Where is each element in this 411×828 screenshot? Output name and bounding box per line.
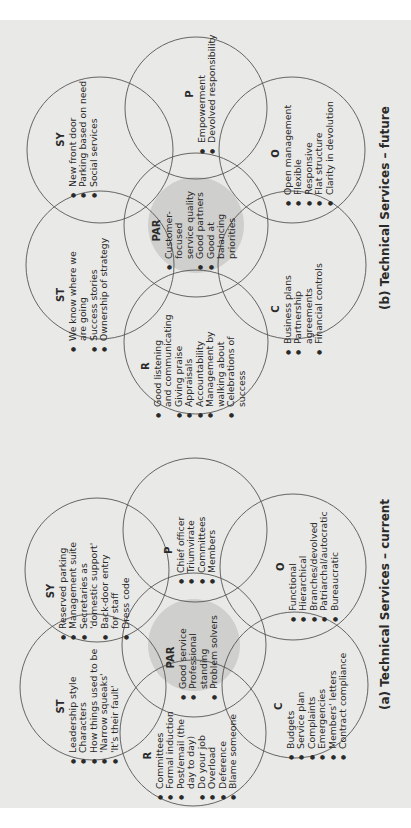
bullet-item: We know where weare going xyxy=(68,238,89,352)
future-power: P EmpowermentDevolved responsibility xyxy=(185,34,218,154)
bullet-item: Management suite xyxy=(68,542,79,640)
current-power: P Chief officerTriumvirateCommitteesMemb… xyxy=(164,517,218,584)
bullet-item: Professionalstanding xyxy=(188,615,209,700)
bullet-item: Problem solvers xyxy=(209,615,220,700)
bullet-item: Clarity in devolution xyxy=(325,101,336,206)
bullet-item: Appraisals xyxy=(184,314,195,418)
bullet-item: Formal induction xyxy=(165,711,176,800)
bullet-item: Contract compliance xyxy=(338,653,349,760)
current-organisation: O FunctionalHierarchicalBranches/devolve… xyxy=(276,511,340,622)
future-rituals: R Good listeningand communicatingGiving … xyxy=(141,314,247,418)
bullet-item: Devolved responsibility xyxy=(207,34,218,154)
future-symbols: SY New front doorParking based on needSo… xyxy=(56,81,99,198)
bullet-item: Partnershipagreements xyxy=(293,263,314,355)
future-organisation: O Open managementFlexibleResponsiveFlat … xyxy=(271,101,335,206)
bullet-item: Hierarchical xyxy=(298,511,309,622)
bullet-item: Ownership of strategy xyxy=(99,238,110,352)
bullet-item: Blame someone xyxy=(228,711,239,800)
bullet-item: Back-door entryfor staff xyxy=(100,542,121,640)
bullet-item: Emergencies xyxy=(317,653,328,760)
bullet-item: Members xyxy=(207,517,218,584)
bullet-item: Social services xyxy=(89,81,100,198)
bullet-item: Good partners xyxy=(195,191,206,270)
bullet-item: Customer-focusedservice quality xyxy=(164,191,196,270)
current-stories: ST Leadership styleCharactersHow things … xyxy=(56,649,120,764)
bullet-item: Triumvirate xyxy=(186,517,197,584)
bullet-item: Service plan xyxy=(296,653,307,760)
bullet-item: Bureaucratic xyxy=(330,511,341,622)
caption-current: (a) Technical Services – current xyxy=(378,499,392,710)
future-stories: ST We know where weare goingSuccess stor… xyxy=(56,238,110,352)
bullet-item: Celebrations ofsuccess xyxy=(226,314,247,418)
bullet-item: 'Narrow squeaks' xyxy=(99,649,110,764)
bullet-item: 'It's their fault' xyxy=(110,649,121,764)
bullet-item: Management bywalking about xyxy=(205,314,226,418)
bullet-item: Flexible xyxy=(293,101,304,206)
bullet-item: Patriarchal/autocratic xyxy=(319,511,330,622)
bullet-item: Post/email (theday to day) xyxy=(176,711,197,800)
future-controls: C Business plansPartnershipagreementsFin… xyxy=(271,263,325,355)
bullet-item: Characters xyxy=(78,649,89,764)
future-paradigm: PAR Customer-focusedservice qualityGood … xyxy=(152,191,237,270)
current-rituals: R CommitteesFormal inductionPost/email (… xyxy=(143,711,239,800)
caption-future: (b) Technical Services – future xyxy=(378,106,392,310)
bullet-item: Good listeningand communicating xyxy=(153,314,174,418)
figure-page: SY New front doorParking based on needSo… xyxy=(0,20,411,808)
current-paradigm: PAR Good serviceProfessionalstandingProb… xyxy=(166,615,220,700)
bullet-item: Overload xyxy=(207,711,218,800)
bullet-item: Financial controls xyxy=(314,263,325,355)
current-controls: C BudgetsService planComplaintsEmergenci… xyxy=(274,653,349,760)
bullet-item: Flat structure xyxy=(314,101,325,206)
current-symbols: SY Reserved parkingManagement suiteSecre… xyxy=(46,542,131,640)
bullet-item: Dress code xyxy=(121,542,132,640)
bullet-item: Good atbalancingpriorities xyxy=(206,191,238,270)
bullet-item: Secretaries as'domestic support' xyxy=(79,542,100,640)
bullet-item: Parking based on need xyxy=(78,81,89,198)
